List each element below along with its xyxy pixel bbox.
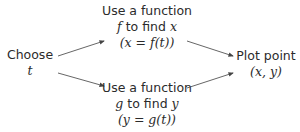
choose-variable: t [4,63,56,79]
find-y-line1: Use a function [98,80,196,96]
target-y: y [172,96,179,111]
node-choose: Choose t [4,47,56,79]
find-y-line2: g to find y [98,96,196,112]
plot-point-label: Plot point [234,48,298,64]
target-x: x [170,19,177,34]
find-x-line2: f to find x [98,19,196,35]
point-coordinates: (x, y) [234,64,298,80]
find-x-line1: Use a function [98,3,196,19]
node-find-x: Use a function f to find x (x = f(t)) [98,3,196,51]
node-plot-point: Plot point (x, y) [234,48,298,80]
node-find-y: Use a function g to find y (y = g(t)) [98,80,196,128]
equation-y: (y = g(t)) [98,112,196,128]
equation-x: (x = f(t)) [98,35,196,51]
choose-label: Choose [4,47,56,63]
